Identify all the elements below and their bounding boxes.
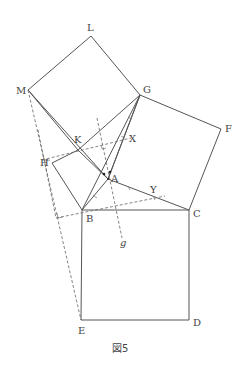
angle-dot	[103, 173, 106, 176]
label-d: D	[193, 317, 201, 328]
label-x: X	[129, 133, 137, 144]
label-y: Y	[149, 184, 157, 195]
dash-kx	[42, 138, 131, 160]
pythagorean-diagram: L M G F K X H A Y B C E D g 図5	[0, 0, 244, 369]
label-a: A	[110, 173, 119, 184]
figure-caption: 図5	[112, 343, 128, 354]
label-b: B	[86, 213, 93, 224]
label-h: H	[40, 157, 49, 168]
label-l: L	[87, 22, 94, 33]
right-angle-mark	[57, 213, 63, 218]
square-kabh	[52, 150, 108, 210]
dash-by	[56, 196, 165, 218]
point-a	[107, 178, 109, 180]
line-gb	[82, 95, 140, 210]
square-bcde	[81, 210, 189, 320]
dash-g-line	[97, 118, 122, 238]
label-g: G	[143, 84, 151, 95]
square-gfca	[108, 95, 221, 210]
label-c: C	[193, 208, 201, 219]
dash-me	[28, 90, 81, 320]
label-g-line: g	[120, 237, 126, 248]
label-f: F	[225, 123, 232, 134]
square-lmkg	[28, 36, 140, 150]
label-m: M	[16, 85, 26, 96]
label-e: E	[78, 325, 85, 336]
label-k: K	[74, 134, 82, 145]
